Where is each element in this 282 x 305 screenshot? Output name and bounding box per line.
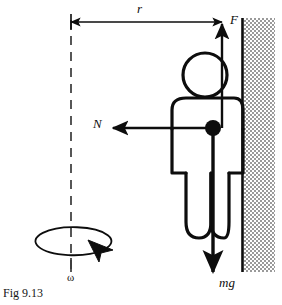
person-left-leg bbox=[186, 173, 211, 238]
wall-hatching bbox=[244, 18, 275, 272]
normal-force-label: N bbox=[93, 117, 102, 130]
person-torso-left-side bbox=[172, 129, 186, 173]
figure-drawing bbox=[0, 0, 282, 305]
radius-label: r bbox=[137, 2, 142, 15]
angular-velocity-label: ω bbox=[67, 272, 74, 283]
rotation-arrowhead bbox=[88, 240, 113, 262]
person-torso-right-side bbox=[229, 129, 243, 173]
weight-label: mg bbox=[219, 276, 235, 289]
person-head bbox=[183, 53, 227, 97]
center-of-mass-dot bbox=[205, 120, 221, 136]
radius-dimension bbox=[71, 14, 222, 30]
wall bbox=[243, 18, 276, 272]
friction-force-label: F bbox=[230, 13, 238, 26]
rotation-direction-indicator bbox=[35, 227, 113, 262]
figure-caption: Fig 9.13 bbox=[3, 286, 43, 301]
physics-figure: r F N mg ω Fig 9.13 bbox=[0, 0, 282, 305]
person-figure bbox=[172, 53, 243, 238]
